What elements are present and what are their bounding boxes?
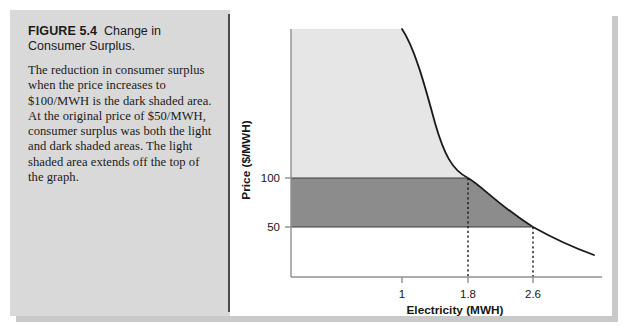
x-tick-label-1: 1 bbox=[399, 288, 405, 300]
figure-root: FIGURE 5.4 Change in Consumer Surplus. T… bbox=[0, 0, 624, 334]
y-tick-label-100: 100 bbox=[261, 172, 280, 184]
y-tick-label-50: 50 bbox=[267, 221, 280, 233]
consumer-surplus-chart: 100 50 1 1.8 2.6 Price ($/MWH) Electrici… bbox=[230, 10, 612, 316]
y-axis-title: Price ($/MWH) bbox=[239, 120, 253, 199]
x-tick-label-1-8: 1.8 bbox=[460, 288, 476, 300]
figure-number: FIGURE 5.4 bbox=[28, 24, 97, 38]
figure-block: FIGURE 5.4 Change in Consumer Surplus. T… bbox=[10, 10, 612, 316]
light-shaded-area bbox=[291, 29, 468, 178]
x-tick-label-2-6: 2.6 bbox=[525, 288, 541, 300]
caption-panel: FIGURE 5.4 Change in Consumer Surplus. T… bbox=[10, 10, 230, 316]
x-axis-title: Electricity (MWH) bbox=[406, 303, 503, 316]
figure-title: FIGURE 5.4 Change in Consumer Surplus. bbox=[28, 24, 214, 54]
chart-panel: 100 50 1 1.8 2.6 Price ($/MWH) Electrici… bbox=[230, 10, 612, 316]
figure-caption-text: The reduction in consumer surplus when t… bbox=[28, 63, 214, 185]
dark-shaded-area bbox=[291, 178, 533, 227]
